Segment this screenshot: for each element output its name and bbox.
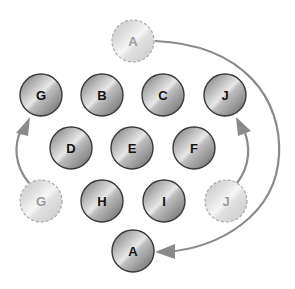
ghost-ball-j: J — [205, 180, 247, 222]
ghost-ball-a: A — [112, 20, 154, 62]
ball-i: I — [143, 180, 185, 222]
diagram: AGJ GBCJDEFHIA — [0, 0, 295, 289]
ball-label: D — [66, 141, 75, 156]
arrowhead-a — [155, 244, 175, 259]
ball-b: B — [81, 74, 123, 116]
ball-f: F — [173, 127, 215, 169]
arrow-ghost-g-to-g — [16, 130, 29, 183]
ball-label: A — [128, 244, 138, 259]
ghost-layer: AGJ — [20, 20, 247, 222]
ghost-ball-label: G — [36, 194, 46, 209]
ball-label: B — [97, 88, 106, 103]
ball-label: E — [128, 141, 137, 156]
ghost-ball-g: G — [20, 180, 62, 222]
ball-a: A — [112, 230, 154, 272]
ball-j: J — [204, 74, 246, 116]
ball-g: G — [20, 74, 62, 116]
ball-c: C — [142, 74, 184, 116]
arrowhead-g — [16, 117, 30, 136]
ball-d: D — [50, 127, 92, 169]
ball-label: H — [97, 194, 106, 209]
ball-label: C — [158, 88, 168, 103]
ball-e: E — [111, 127, 153, 169]
ball-label: J — [221, 88, 228, 103]
ball-label: I — [162, 194, 166, 209]
ghost-ball-label: A — [128, 34, 138, 49]
ghost-ball-label: J — [222, 194, 229, 209]
ball-label: F — [190, 141, 198, 156]
arrow-ghost-j-to-j — [237, 130, 248, 183]
ball-label: G — [36, 88, 46, 103]
arrowhead-j — [236, 117, 251, 136]
ball-h: H — [81, 180, 123, 222]
